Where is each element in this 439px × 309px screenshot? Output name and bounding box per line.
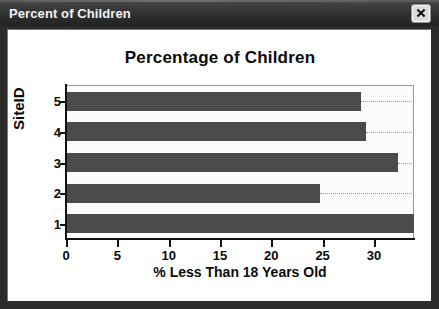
x-tick-0 <box>66 239 68 247</box>
x-tick-10 <box>169 239 171 247</box>
y-axis-label: SiteID <box>10 87 27 130</box>
x-tick-label-25: 25 <box>315 248 329 263</box>
x-tick-5 <box>117 239 119 247</box>
bar-site-3 <box>66 153 398 172</box>
x-axis-label: % Less Than 18 Years Old <box>66 264 414 280</box>
x-tick-label-30: 30 <box>367 248 381 263</box>
close-button[interactable] <box>411 4 431 23</box>
y-axis-line <box>65 84 67 240</box>
chart-window: Percent of Children Percentage of Childr… <box>0 0 439 309</box>
gridline <box>320 193 414 194</box>
y-tick-label-3: 3 <box>54 156 61 171</box>
bar-site-2 <box>66 184 320 203</box>
bar-site-4 <box>66 122 366 141</box>
x-tick-label-15: 15 <box>213 248 227 263</box>
x-tick-15 <box>220 239 222 247</box>
x-tick-20 <box>271 239 273 247</box>
x-tick-label-10: 10 <box>161 248 175 263</box>
gridline <box>366 132 414 133</box>
bar-site-5 <box>66 92 361 111</box>
y-tick-label-5: 5 <box>54 94 61 109</box>
plot-area: 12345051015202530 <box>66 85 414 238</box>
x-tick-label-20: 20 <box>264 248 278 263</box>
window-titlebar[interactable]: Percent of Children <box>0 0 439 26</box>
y-tick-label-1: 1 <box>54 217 61 232</box>
chart-title: Percentage of Children <box>8 48 431 68</box>
gridline <box>361 101 414 102</box>
window-title: Percent of Children <box>9 6 131 21</box>
y-tick-label-4: 4 <box>54 125 61 140</box>
x-tick-label-0: 0 <box>62 248 69 263</box>
x-tick-30 <box>374 239 376 247</box>
bar-site-1 <box>66 214 414 233</box>
gridline <box>398 163 414 164</box>
x-tick-25 <box>323 239 325 247</box>
chart-canvas: Percentage of Children SiteID 1234505101… <box>7 29 431 301</box>
titlebar-highlight <box>0 0 439 2</box>
y-tick-label-2: 2 <box>54 186 61 201</box>
x-axis-line <box>65 238 415 240</box>
x-tick-label-5: 5 <box>114 248 121 263</box>
close-x-icon <box>415 7 427 19</box>
